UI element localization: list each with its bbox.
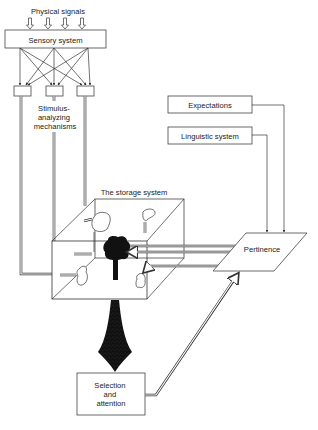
stimulus-analyzer-boxes (14, 86, 94, 96)
sensory-to-analyzer-arrows (20, 48, 90, 85)
physical-signals-label: Physical signals (31, 7, 85, 16)
physical-signal-arrows (27, 18, 86, 29)
expectations-label: Expectations (188, 101, 232, 110)
analyzer-box-3 (77, 86, 94, 96)
pertinence-label: Pertinence (244, 245, 280, 254)
expectations-box: Expectations (168, 96, 252, 113)
memory-trace-blob (92, 212, 110, 231)
storage-output-funnel (98, 300, 132, 372)
analyzer-box-1 (14, 86, 31, 96)
storage-system-cube (52, 199, 184, 299)
central-memory-trace (103, 236, 130, 280)
selection-attention-box: Selection and attention (77, 373, 145, 415)
linguistic-system-box: Linguistic system (168, 127, 252, 144)
context-to-pertinence-lines (252, 105, 284, 232)
sensory-system-label: Sensory system (28, 36, 82, 45)
memory-trace-blob (136, 273, 145, 287)
attention-model-diagram: Physical signals Sensory system Stimulus… (0, 0, 318, 430)
analyzer-box-2 (46, 86, 63, 96)
selection-to-pertinence-line (145, 274, 238, 395)
storage-system-label: The storage system (101, 188, 168, 197)
memory-trace-blob (77, 266, 87, 285)
sensory-system-box: Sensory system (5, 30, 106, 48)
stimulus-analyzing-label: Stimulus- analyzing mechanisms (34, 104, 77, 131)
linguistic-system-label: Linguistic system (181, 132, 239, 141)
